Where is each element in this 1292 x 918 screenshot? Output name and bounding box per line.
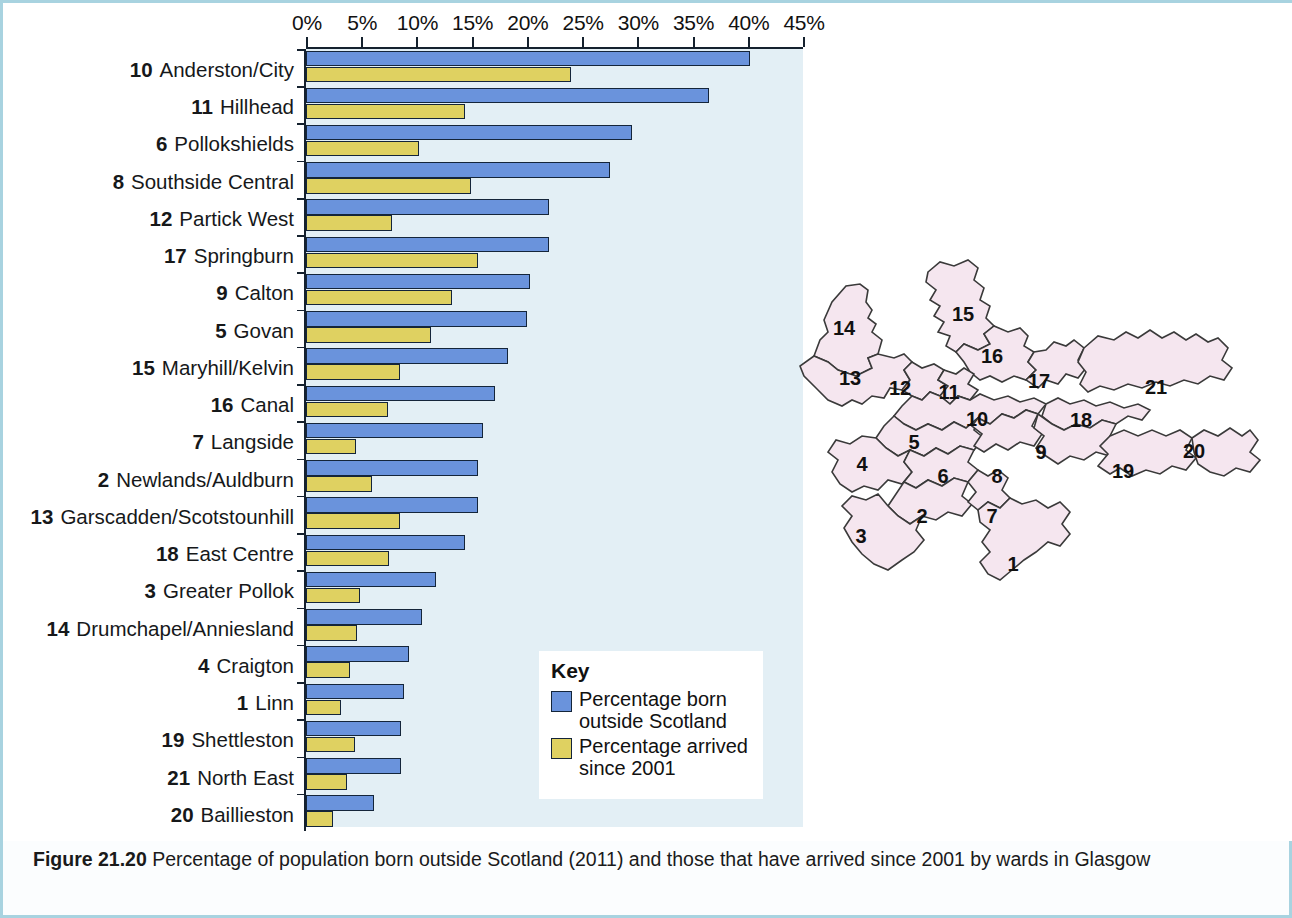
category-label: 17Springburn bbox=[164, 246, 294, 267]
bar-born-outside bbox=[306, 572, 436, 588]
category-label-ward-number: 9 bbox=[216, 281, 227, 304]
category-label-ward-number: 15 bbox=[132, 356, 155, 379]
ward-label-3: 3 bbox=[855, 525, 866, 547]
x-axis-tick-label: 10% bbox=[397, 11, 438, 35]
figure-caption: Figure 21.20 Percentage of population bo… bbox=[33, 845, 1263, 873]
ward-label-12: 12 bbox=[889, 377, 911, 399]
bar-arrived-since-2001 bbox=[306, 327, 431, 343]
category-label: 21North East bbox=[167, 768, 294, 789]
bar-arrived-since-2001 bbox=[306, 402, 388, 418]
category-label-ward-name: Maryhill/Kelvin bbox=[162, 356, 294, 379]
category-label: 9Calton bbox=[216, 283, 294, 304]
category-label-ward-name: Southside Central bbox=[131, 170, 294, 193]
y-axis bbox=[304, 49, 306, 831]
legend-label-born-outside: Percentage born outside Scotland bbox=[579, 688, 755, 733]
category-label-ward-number: 17 bbox=[164, 244, 187, 267]
x-axis-tick bbox=[803, 37, 805, 47]
ward-label-8: 8 bbox=[991, 465, 1002, 487]
bar-born-outside bbox=[306, 274, 530, 290]
bar-arrived-since-2001 bbox=[306, 625, 357, 641]
x-axis-tick bbox=[693, 37, 695, 47]
category-label: 14Drumchapel/Anniesland bbox=[47, 619, 294, 640]
category-label-ward-number: 3 bbox=[145, 579, 156, 602]
ward-label-16: 16 bbox=[981, 345, 1003, 367]
category-label-ward-name: Langside bbox=[211, 430, 294, 453]
x-axis-tick-label: 35% bbox=[673, 11, 714, 35]
chart-panel: 0%5%10%15%20%25%30%35%40%45% 10Anderston… bbox=[3, 3, 1292, 841]
bar-arrived-since-2001 bbox=[306, 178, 471, 194]
figure-page: 0%5%10%15%20%25%30%35%40%45% 10Anderston… bbox=[0, 0, 1292, 918]
category-label-ward-name: Drumchapel/Anniesland bbox=[76, 617, 294, 640]
bar-arrived-since-2001 bbox=[306, 774, 347, 790]
category-label-ward-number: 21 bbox=[167, 766, 190, 789]
category-label-ward-number: 5 bbox=[215, 319, 226, 342]
category-label: 1Linn bbox=[237, 693, 294, 714]
ward-label-7: 7 bbox=[986, 505, 997, 527]
bar-arrived-since-2001 bbox=[306, 290, 452, 306]
ward-shapes bbox=[800, 260, 1260, 580]
category-label-ward-name: Shettleston bbox=[191, 728, 294, 751]
category-label-ward-name: East Centre bbox=[186, 542, 294, 565]
category-label-ward-number: 13 bbox=[31, 505, 54, 528]
category-label-ward-name: Partick West bbox=[179, 207, 294, 230]
category-label-ward-name: Calton bbox=[235, 281, 294, 304]
ward-label-14: 14 bbox=[833, 317, 856, 339]
bar-arrived-since-2001 bbox=[306, 215, 392, 231]
bar-born-outside bbox=[306, 162, 610, 178]
bar-arrived-since-2001 bbox=[306, 439, 356, 455]
category-label-ward-number: 7 bbox=[192, 430, 203, 453]
legend-item-arrived-since-2001: Percentage arrived since 2001 bbox=[549, 735, 755, 780]
bar-born-outside bbox=[306, 684, 404, 700]
ward-label-13: 13 bbox=[839, 367, 861, 389]
ward-label-1: 1 bbox=[1007, 553, 1018, 575]
category-label-ward-name: Hillhead bbox=[220, 95, 294, 118]
category-label-ward-name: North East bbox=[197, 766, 294, 789]
bar-born-outside bbox=[306, 497, 478, 513]
category-axis-labels: 10Anderston/City11Hillhead6Pollokshields… bbox=[3, 49, 300, 831]
ward-label-18: 18 bbox=[1070, 409, 1092, 431]
category-label-ward-number: 11 bbox=[191, 95, 213, 118]
bar-arrived-since-2001 bbox=[306, 67, 571, 83]
category-label: 2Newlands/Auldburn bbox=[98, 470, 294, 491]
ward-label-5: 5 bbox=[908, 431, 919, 453]
bar-arrived-since-2001 bbox=[306, 513, 400, 529]
figure-number: Figure 21.20 bbox=[33, 848, 147, 870]
bar-arrived-since-2001 bbox=[306, 700, 341, 716]
x-axis-tick bbox=[637, 37, 639, 47]
category-label-ward-number: 16 bbox=[211, 393, 234, 416]
category-label: 6Pollokshields bbox=[156, 134, 294, 155]
legend-item-born-outside: Percentage born outside Scotland bbox=[549, 688, 755, 733]
category-label-ward-number: 8 bbox=[113, 170, 124, 193]
bar-arrived-since-2001 bbox=[306, 737, 355, 753]
category-label-ward-number: 20 bbox=[171, 803, 194, 826]
x-axis-tick-label: 40% bbox=[728, 11, 769, 35]
ward-label-19: 19 bbox=[1112, 460, 1134, 482]
category-label-ward-name: Canal bbox=[240, 393, 294, 416]
x-axis-tick-label: 20% bbox=[507, 11, 548, 35]
glasgow-wards-map: 14 13 15 16 12 11 17 21 10 18 5 4 6 8 9 … bbox=[798, 258, 1268, 628]
bar-born-outside bbox=[306, 460, 478, 476]
category-label: 15Maryhill/Kelvin bbox=[132, 358, 294, 379]
category-label-ward-number: 12 bbox=[150, 207, 173, 230]
x-axis-tick bbox=[582, 37, 584, 47]
bar-arrived-since-2001 bbox=[306, 253, 478, 269]
category-label: 8Southside Central bbox=[113, 172, 294, 193]
ward-label-9: 9 bbox=[1035, 441, 1046, 463]
x-axis-tick-label: 15% bbox=[452, 11, 493, 35]
bar-arrived-since-2001 bbox=[306, 476, 372, 492]
bar-born-outside bbox=[306, 535, 465, 551]
category-label-ward-name: Newlands/Auldburn bbox=[116, 468, 294, 491]
bar-arrived-since-2001 bbox=[306, 662, 350, 678]
legend-label-arrived-since-2001: Percentage arrived since 2001 bbox=[579, 735, 755, 780]
x-axis-tick-label: 45% bbox=[783, 11, 824, 35]
category-label: 18East Centre bbox=[156, 544, 294, 565]
category-label: 13Garscadden/Scotstounhill bbox=[31, 507, 294, 528]
ward-label-11: 11 bbox=[938, 381, 959, 403]
category-label-ward-name: Baillieston bbox=[201, 803, 294, 826]
category-label-ward-number: 14 bbox=[47, 617, 70, 640]
category-label-ward-name: Springburn bbox=[194, 244, 294, 267]
category-label: 5Govan bbox=[215, 321, 294, 342]
legend-swatch-blue bbox=[551, 691, 572, 712]
x-axis-tick bbox=[416, 37, 418, 47]
ward-label-4: 4 bbox=[856, 453, 868, 475]
